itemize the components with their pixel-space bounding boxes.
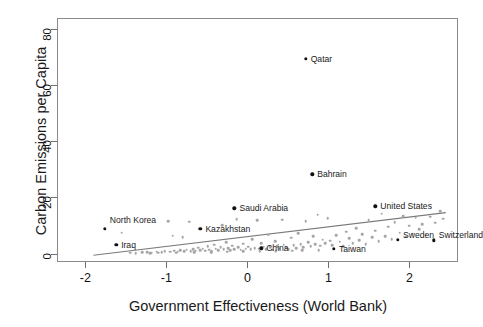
data-point (317, 249, 320, 252)
data-point (274, 240, 277, 243)
data-point (167, 220, 170, 223)
data-point (394, 221, 397, 224)
data-point (134, 252, 137, 255)
data-point (329, 239, 332, 242)
y-axis-tick-label: 40 (41, 140, 53, 160)
y-axis-tick-label: 60 (41, 84, 53, 104)
data-point (242, 250, 245, 253)
data-point (229, 249, 232, 252)
data-point (345, 230, 348, 233)
data-point (348, 237, 351, 240)
x-axis-tick (166, 262, 167, 268)
data-point (290, 237, 293, 240)
data-point (249, 248, 252, 251)
data-point (307, 241, 310, 244)
data-point (160, 251, 163, 254)
point-label: Taiwan (339, 244, 366, 254)
data-point (304, 220, 307, 223)
data-point (321, 238, 324, 241)
x-axis-tick-label: 0 (244, 271, 251, 285)
data-point (210, 251, 213, 254)
data-point (439, 210, 442, 213)
trendline (57, 18, 458, 262)
data-point (236, 218, 239, 221)
data-point (319, 244, 322, 247)
data-point (291, 249, 294, 252)
data-point (402, 215, 405, 218)
data-point (172, 234, 175, 237)
data-point (371, 236, 374, 239)
x-axis-tick-label: 2 (406, 271, 413, 285)
x-axis-tick (409, 262, 410, 268)
point-label: United States (380, 201, 432, 211)
data-point (302, 246, 305, 249)
data-point (217, 249, 220, 252)
data-point (355, 227, 358, 230)
data-point (408, 225, 411, 228)
data-point (326, 217, 329, 220)
data-point (384, 235, 387, 238)
x-axis-tick-label: 1 (325, 271, 332, 285)
data-point (121, 232, 124, 235)
data-point (141, 251, 144, 254)
data-point (188, 221, 191, 224)
data-point (377, 240, 380, 243)
data-point (251, 238, 254, 241)
data-point (179, 249, 182, 252)
data-point (267, 233, 270, 236)
data-point (324, 242, 327, 245)
x-axis-tick (328, 262, 329, 268)
data-point (223, 248, 226, 251)
x-axis-tick (85, 262, 86, 268)
data-point (233, 248, 236, 251)
data-point (358, 239, 361, 242)
data-point (253, 247, 256, 250)
data-point (149, 252, 152, 255)
data-point (301, 249, 304, 252)
data-point (415, 216, 418, 219)
data-point (368, 219, 371, 222)
data-point (331, 244, 334, 247)
data-point (297, 232, 300, 235)
data-point (185, 248, 188, 251)
data-point (169, 250, 172, 253)
data-point (314, 243, 317, 246)
data-point (204, 249, 207, 252)
y-axis-tick-label: 80 (41, 28, 53, 48)
point-label: Saudi Arabia (239, 203, 288, 213)
x-axis-tick (247, 262, 248, 268)
x-axis-tick-label: -1 (161, 271, 172, 285)
data-point (206, 245, 209, 248)
x-axis-tick-label: -2 (80, 271, 91, 285)
point-label: North Korea (110, 215, 156, 225)
data-point (226, 250, 229, 253)
data-point (295, 247, 298, 250)
data-point (387, 225, 390, 228)
data-point (181, 236, 184, 239)
y-axis-tick-label: 20 (41, 196, 53, 216)
data-point (317, 214, 320, 217)
data-point (390, 238, 393, 241)
x-axis-title: Government Effectiveness (World Bank) (57, 298, 459, 314)
data-point (219, 246, 222, 249)
data-point (398, 231, 401, 234)
data-point (225, 241, 228, 244)
data-point (146, 251, 149, 254)
data-point (231, 244, 234, 247)
data-point (442, 218, 445, 221)
data-point (260, 242, 263, 245)
data-point (429, 216, 432, 219)
data-point (281, 218, 284, 221)
point-label: Switzerland (439, 230, 483, 240)
data-point (175, 251, 178, 254)
point-label: Iraq (121, 240, 136, 250)
point-label: Qatar (311, 54, 333, 64)
point-label: Bahrain (317, 169, 347, 179)
data-point (434, 221, 437, 224)
data-point (129, 251, 132, 254)
data-point (312, 235, 315, 238)
data-point (258, 250, 261, 253)
y-axis-tick-label: 0 (41, 253, 53, 273)
data-point (374, 229, 377, 232)
